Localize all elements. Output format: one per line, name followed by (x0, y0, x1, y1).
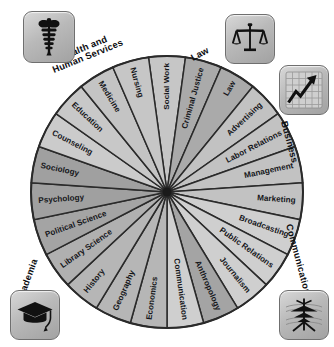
scales-icon (225, 14, 275, 64)
radio-tower-icon (279, 290, 329, 340)
growth-chart-icon (279, 65, 329, 115)
career-wheel-figure: Social WorkCriminal JusticeLawAdvertisin… (0, 0, 334, 347)
caduceus-icon (23, 11, 75, 63)
category-label-communication: Communication (284, 223, 313, 296)
wheel-slice-label: Social Work (162, 63, 171, 110)
graduation-cap-icon (10, 290, 60, 340)
wheel-center-dot (163, 188, 172, 197)
